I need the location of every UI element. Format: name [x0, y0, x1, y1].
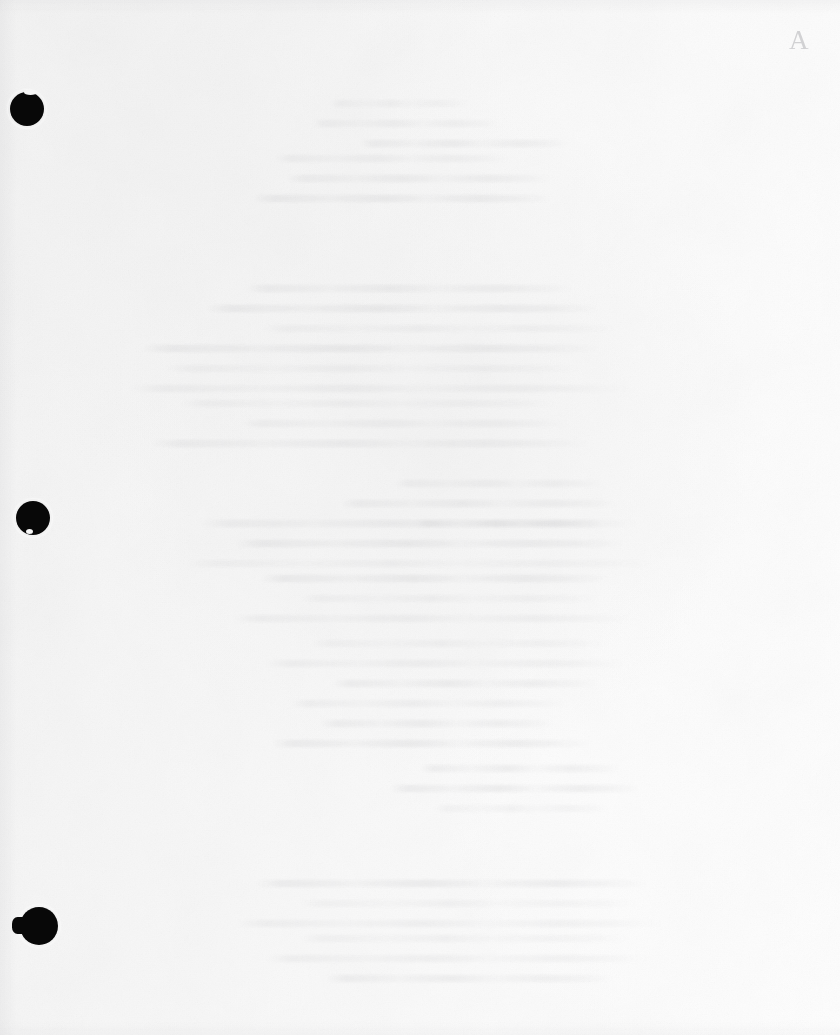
- top-punch-hole: [10, 92, 44, 126]
- middle-punch-hole-tear: [26, 529, 33, 534]
- scanned-page: A: [0, 0, 840, 1035]
- bottom-punch-hole-nick: [12, 917, 26, 934]
- paper-background: [0, 0, 840, 1035]
- pencil-annotation-mark: A: [789, 27, 809, 54]
- top-punch-hole-tear: [24, 90, 37, 95]
- middle-punch-hole: [16, 501, 50, 535]
